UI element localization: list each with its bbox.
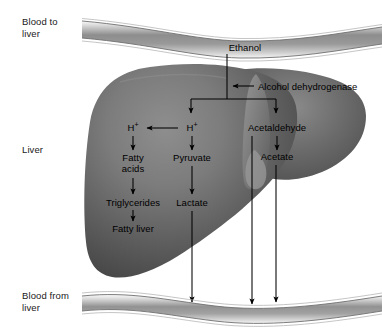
node-h-plus-center: H+ <box>186 122 197 133</box>
region-label-blood-from-liver: Blood from liver <box>22 290 69 313</box>
node-triglycerides: Triglycerides <box>106 197 160 208</box>
blood-vessel-bottom <box>82 292 382 327</box>
node-ethanol: Ethanol <box>229 42 262 53</box>
region-label-blood-to-liver: Blood to liver <box>22 16 58 39</box>
blood-vessel-top <box>82 19 382 62</box>
enzyme-label-alcohol-dehydrogenase: Alcohol dehydrogenase <box>258 81 357 92</box>
node-lactate: Lactate <box>176 197 208 208</box>
node-fatty-liver: Fatty liver <box>112 223 154 234</box>
liver-ethanol-metabolism-diagram: Blood to liver Liver Blood from liver Et… <box>0 0 382 333</box>
node-h-plus-left: H+ <box>127 122 138 133</box>
h-plus-left-text: H <box>127 122 134 133</box>
diagram-canvas <box>0 0 382 333</box>
node-pyruvate: Pyruvate <box>173 152 211 163</box>
node-fatty-acids: Fatty acids <box>122 152 144 174</box>
node-acetaldehyde: Acetaldehyde <box>248 122 306 133</box>
h-plus-center-text: H <box>186 122 193 133</box>
node-acetate: Acetate <box>261 151 294 162</box>
region-label-liver: Liver <box>22 144 43 156</box>
